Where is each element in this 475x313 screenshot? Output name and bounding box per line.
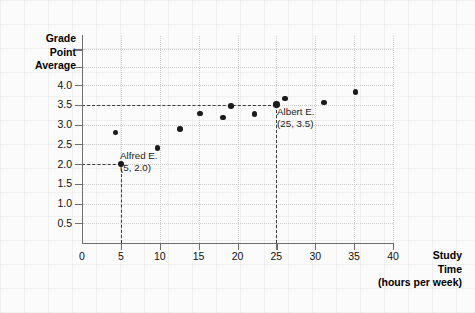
x-tick-mark <box>393 243 394 250</box>
x-tick-mark <box>199 243 200 250</box>
y-tick-label: 4.0 <box>38 79 72 91</box>
annotation-alfred: Alfred E. (5, 2.0) <box>120 150 158 174</box>
y-tick-mark <box>75 67 83 68</box>
y-tick-mark <box>75 125 83 126</box>
guide-line-horizontal <box>82 105 276 106</box>
gridline-vertical <box>160 36 162 243</box>
guide-line-horizontal <box>82 164 121 165</box>
y-tick-mark <box>75 223 83 224</box>
annotation-albert-coords: (25, 3.5) <box>277 118 315 130</box>
x-tick-mark <box>121 243 122 250</box>
y-tick-mark <box>75 164 83 165</box>
y-tick-label: 2.0 <box>38 158 72 170</box>
annotation-alfred-coords: (5, 2.0) <box>120 162 158 174</box>
y-tick-label: 3.5 <box>38 98 72 110</box>
data-point <box>282 96 288 102</box>
y-tick-label: 0.5 <box>38 217 72 229</box>
data-point <box>321 100 327 106</box>
x-axis-title-line2: Time <box>330 263 462 277</box>
y-tick-label: 1.0 <box>38 197 72 209</box>
y-axis-line <box>82 35 83 243</box>
data-point <box>113 130 119 136</box>
gridline-vertical <box>315 36 317 243</box>
y-tick-mark <box>75 85 83 86</box>
x-tick-label: 15 <box>187 250 211 262</box>
scatter-plot-figure: Grade Point Average Study Time (hours pe… <box>0 0 475 313</box>
y-tick-label: 3.0 <box>38 118 72 130</box>
y-axis-title-line3: Average <box>8 59 76 73</box>
y-tick-label: 2.5 <box>38 138 72 150</box>
x-tick-label: 25 <box>264 250 288 262</box>
gridline-vertical <box>393 36 395 243</box>
x-tick-label: 10 <box>148 250 172 262</box>
data-point <box>220 115 226 121</box>
data-point <box>353 89 359 95</box>
y-tick-mark <box>75 184 83 185</box>
gridline-vertical <box>199 36 201 243</box>
gridline-vertical <box>238 36 240 243</box>
plot-area: Grade Point Average Study Time (hours pe… <box>0 0 475 313</box>
x-tick-label: 20 <box>226 250 250 262</box>
y-axis-title-line2: Point <box>8 46 76 60</box>
data-point <box>177 126 183 132</box>
gridline-vertical <box>354 36 356 243</box>
guide-line-vertical <box>121 164 122 243</box>
data-point <box>252 111 258 117</box>
x-tick-mark <box>315 243 316 250</box>
x-tick-label: 30 <box>303 250 327 262</box>
x-tick-label: 35 <box>342 250 366 262</box>
x-tick-mark <box>160 243 161 250</box>
y-axis-title-line1: Grade <box>8 32 76 46</box>
y-tick-mark <box>75 204 83 205</box>
data-point <box>228 103 234 109</box>
x-tick-label: 5 <box>109 250 133 262</box>
y-axis-title: Grade Point Average <box>8 32 76 73</box>
x-tick-mark <box>276 243 277 250</box>
x-tick-mark <box>354 243 355 250</box>
annotation-albert-name: Albert E. <box>277 106 315 118</box>
x-tick-label: 0 <box>70 250 94 262</box>
y-tick-mark <box>75 105 83 106</box>
y-tick-mark <box>75 49 83 50</box>
x-tick-label: 40 <box>381 250 405 262</box>
x-axis-title-line3: (hours per week) <box>330 276 462 290</box>
data-point <box>197 111 203 117</box>
annotation-albert: Albert E. (25, 3.5) <box>277 106 315 130</box>
x-tick-mark <box>238 243 239 250</box>
annotation-alfred-name: Alfred E. <box>120 150 158 162</box>
y-tick-label: 1.5 <box>38 177 72 189</box>
y-tick-mark <box>75 144 83 145</box>
